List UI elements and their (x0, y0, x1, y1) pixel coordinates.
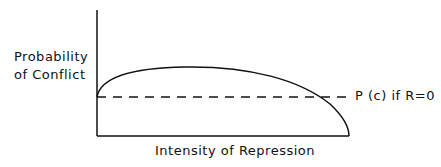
y-axis-label-line2: of Conflict (14, 66, 88, 84)
reference-line-label: P (c) if R=0 (355, 88, 435, 103)
y-axis-label: Probability of Conflict (14, 48, 88, 84)
y-axis-label-line1: Probability (14, 48, 88, 66)
conflict-curve (97, 67, 349, 136)
x-axis-label: Intensity of Repression (155, 143, 315, 158)
